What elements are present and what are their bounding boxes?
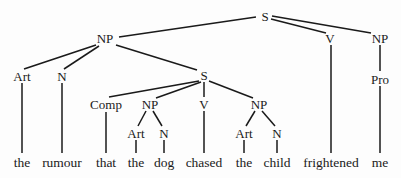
node-np-object: NP [372,32,389,45]
node-np-embedded-subject: NP [142,98,159,111]
node-np-subject: NP [97,32,114,45]
tree-edges [0,0,401,178]
word-the: the [14,156,31,170]
word-frightened: frightened [303,156,358,170]
word-that: that [96,156,116,170]
node-art: Art [127,127,144,140]
tree-edge [109,81,199,97]
word-the: the [128,156,145,170]
node-v-main: V [325,32,334,45]
tree-edge [153,111,162,126]
tree-edge [138,111,146,126]
word-the: the [236,156,253,170]
word-child: child [264,156,291,170]
tree-edge [119,17,256,37]
node-n: N [159,127,168,140]
node-n: N [272,127,281,140]
node-art: Art [13,70,30,83]
node-pro: Pro [371,73,389,86]
tree-edge [209,81,253,98]
word-chased: chased [186,156,223,170]
node-v-embedded: V [199,98,208,111]
tree-edge [24,45,96,69]
node-s-root: S [261,10,268,23]
tree-edge [262,111,275,126]
node-comp: Comp [90,98,122,111]
word-me: me [372,156,389,170]
tree-edge [116,45,197,70]
node-n: N [57,70,66,83]
node-art: Art [235,127,252,140]
node-np-embedded-object: NP [251,98,268,111]
tree-edge [272,16,371,33]
tree-edge [246,111,255,126]
word-rumour: rumour [42,156,82,170]
node-s-embedded: S [200,69,207,82]
word-dog: dog [154,156,174,170]
